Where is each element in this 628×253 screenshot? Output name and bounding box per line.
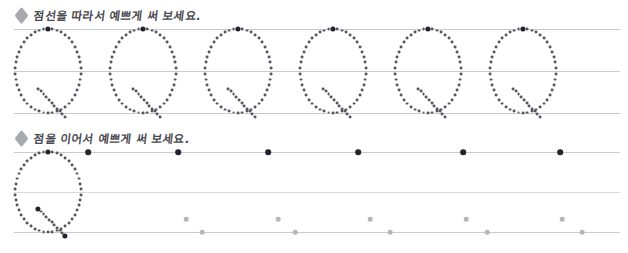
letter-trace-dot: [155, 31, 158, 34]
letter-trace-dot: [264, 45, 267, 48]
letter-trace-dot: [78, 177, 81, 180]
diamond-bullet-icon: [15, 6, 29, 23]
letter-trace-dot: [422, 111, 425, 114]
letter-trace-dot: [237, 112, 240, 115]
letter-trace-dot: [64, 34, 67, 37]
letter-trace-dot: [311, 37, 314, 40]
letter-trace-dot: [349, 34, 352, 37]
letter-trace-dot: [361, 50, 364, 53]
letter-trace-dot: [299, 78, 302, 81]
letter-trace-dot: [359, 94, 362, 97]
letter-trace-dot: [20, 94, 23, 97]
letter-trace-dot: [112, 89, 115, 92]
letter-trace-dot: [501, 37, 504, 40]
letter-trace-dot: [15, 55, 18, 58]
letter-trace-dot: [26, 102, 29, 105]
letter-trace-dot: [435, 29, 438, 32]
letter-trace-dot: [17, 89, 20, 92]
letter-trace-dot: [109, 61, 112, 64]
letter-trace-dot: [51, 230, 54, 233]
letter-trace-dot: [535, 31, 538, 34]
letter-trace-dot: [232, 111, 235, 114]
letter-trace-dot: [15, 204, 18, 207]
letter-trace-dot: [33, 108, 36, 111]
letter-trace-dot: [311, 102, 314, 105]
letter-trace-dot: [307, 41, 310, 44]
letter-trace-dot: [15, 177, 18, 180]
letter-trace-dot: [361, 89, 364, 92]
letter-trace-dot: [204, 67, 207, 70]
letter-trace-dot: [254, 105, 257, 108]
top-marker-dot: [557, 149, 563, 155]
letter-trace-dot: [257, 37, 260, 40]
letter-trace-dot: [71, 218, 74, 221]
letter-trace-dot: [402, 41, 405, 44]
letter-trace-dot: [307, 98, 310, 101]
letter-trace-dot: [517, 111, 520, 114]
letter-tail-end-dot: [63, 233, 68, 238]
letter-trace-dot: [508, 31, 511, 34]
letter-trace-dot: [17, 172, 20, 175]
letter-trace-dot: [553, 55, 556, 58]
letter-trace-dot: [394, 78, 397, 81]
letter-trace-dot: [137, 111, 140, 114]
letter-trace-dot: [51, 111, 54, 114]
letter-trace-dot: [47, 231, 50, 234]
letter-trace-dot: [79, 199, 82, 202]
letter-trace-dot: [546, 98, 549, 101]
letter-trace-dot: [173, 84, 176, 87]
letter-trace-dot: [207, 50, 210, 53]
letter-trace-dot: [554, 72, 557, 75]
letter-trace-dot: [64, 225, 67, 228]
letter-trace-dot: [14, 61, 17, 64]
letter-trace-dot: [546, 41, 549, 44]
letter-trace-dot: [406, 37, 409, 40]
letter-trace-dot: [302, 89, 305, 92]
letter-trace-dot: [204, 72, 207, 75]
letter-trace-dot: [431, 28, 434, 31]
letter-trace-dot: [26, 37, 29, 40]
letter-trace-dot: [22, 218, 25, 221]
letter-trace-dot: [364, 78, 367, 81]
letter-tail-dot: [64, 116, 67, 119]
letter-trace-dot: [497, 98, 500, 101]
letter-trace-dot: [459, 72, 462, 75]
letter-trace-dot: [314, 105, 317, 108]
letter-trace-dot: [459, 61, 462, 64]
letter-trace-dot: [128, 31, 131, 34]
letter-trace-dot: [395, 55, 398, 58]
letter-trace-dot: [51, 151, 54, 154]
letter-trace-dot: [402, 98, 405, 101]
letter-trace-dot: [409, 105, 412, 108]
letter-trace-dot: [549, 94, 552, 97]
letter-trace-dot: [29, 105, 32, 108]
letter-trace-dot: [223, 31, 226, 34]
letter-trace-dot: [169, 94, 172, 97]
letter-trace-dot: [112, 50, 115, 53]
letter-trace-dot: [60, 31, 63, 34]
letter-trace-dot: [71, 41, 74, 44]
letter-trace-dot: [79, 78, 82, 81]
letter-trace-dot: [14, 188, 17, 191]
letter-trace-dot: [20, 45, 23, 48]
letter-trace-dot: [22, 163, 25, 166]
letter-trace-dot: [254, 34, 257, 37]
letter-trace-dot: [269, 72, 272, 75]
letter-trace-dot: [76, 89, 79, 92]
letter-trace-dot: [76, 209, 79, 212]
letter-trace-dot: [451, 98, 454, 101]
letter-trace-dot: [522, 112, 525, 115]
letter-trace-dot: [14, 67, 17, 70]
letter-trace-dot: [212, 41, 215, 44]
letter-trace-dot: [305, 45, 308, 48]
letter-trace-dot: [458, 84, 461, 87]
letter-start-dot: [45, 26, 50, 31]
letter-start-dot: [520, 26, 525, 31]
letter-trace-dot: [508, 108, 511, 111]
letter-trace-dot: [79, 188, 82, 191]
bottom-marker-dot: [388, 230, 393, 235]
letter-trace-dot: [64, 156, 67, 159]
letter-trace-dot: [51, 28, 54, 31]
letter-trace-dot: [159, 105, 162, 108]
letter-trace-dot: [78, 55, 81, 58]
